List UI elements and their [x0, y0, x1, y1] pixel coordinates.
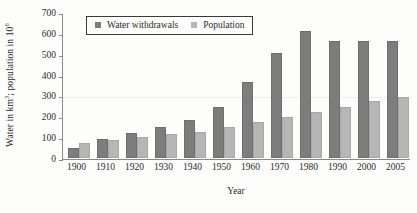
y-axis-tickmark	[59, 35, 63, 36]
bar-population	[369, 101, 380, 158]
plot-area	[62, 14, 410, 160]
bar-population	[340, 107, 351, 158]
y-axis-tick-label: 200	[42, 114, 56, 124]
bar-water-withdrawals	[271, 53, 282, 158]
bar-group	[296, 14, 325, 158]
y-axis-tickmark	[59, 14, 63, 15]
y-axis-tick-label: 600	[42, 30, 56, 40]
x-axis-title: Year	[62, 186, 410, 196]
bar-population	[79, 143, 90, 158]
x-axis-tick-label: 1980	[299, 163, 318, 173]
y-axis-tickmark	[59, 56, 63, 57]
bar-population	[311, 112, 322, 158]
y-axis-tickmark	[59, 139, 63, 140]
bar-water-withdrawals	[97, 139, 108, 158]
bar-population	[195, 132, 206, 158]
bar-group	[267, 14, 296, 158]
bar-group	[93, 14, 122, 158]
bar-population	[166, 134, 177, 158]
y-axis-tick-label: 0	[51, 155, 56, 165]
bar-population	[137, 137, 148, 158]
x-axis-tick-labels: 1900191019201930194019501960197019801990…	[62, 163, 410, 177]
x-axis-tick-label: 1920	[125, 163, 144, 173]
y-axis-tick-label: 500	[42, 51, 56, 61]
bar-population	[398, 97, 409, 158]
bar-group	[64, 14, 93, 158]
chart-legend: Water withdrawals Population	[86, 16, 253, 35]
bar-group	[383, 14, 412, 158]
x-axis-tick-label: 1940	[183, 163, 202, 173]
bar-water-withdrawals	[155, 127, 166, 158]
legend-swatch-icon-population	[191, 22, 197, 28]
x-axis-tick-label: 2000	[357, 163, 376, 173]
bar-water-withdrawals	[242, 82, 253, 158]
x-axis-tick-label: 1970	[270, 163, 289, 173]
legend-item-population: Population	[191, 20, 244, 30]
y-axis-tickmark	[59, 77, 63, 78]
bar-population	[282, 117, 293, 158]
y-axis-tickmark	[59, 160, 63, 161]
x-axis-tick-label: 1960	[241, 163, 260, 173]
legend-swatch-icon-water-withdrawals	[95, 22, 101, 28]
x-axis-tick-label: 2005	[386, 163, 405, 173]
bar-group	[122, 14, 151, 158]
bar-group	[354, 14, 383, 158]
bar-group	[325, 14, 354, 158]
chart-figure: Water in km3; population in 106 01002003…	[0, 0, 417, 213]
y-axis-tickmark	[59, 118, 63, 119]
bar-water-withdrawals	[300, 31, 311, 158]
bar-water-withdrawals	[387, 41, 398, 158]
y-axis-tick-labels: 0100200300400500600700	[18, 14, 60, 160]
bar-groups	[64, 14, 410, 158]
bar-water-withdrawals	[358, 41, 369, 158]
x-axis-tick-label: 1930	[154, 163, 173, 173]
bar-population	[108, 140, 119, 158]
y-axis-tick-label: 400	[42, 72, 56, 82]
bar-water-withdrawals	[184, 120, 195, 158]
bar-water-withdrawals	[329, 41, 340, 158]
y-axis-tickmark	[59, 97, 63, 98]
bar-water-withdrawals	[213, 107, 224, 158]
y-axis-title-exponent-2: 6	[3, 23, 10, 26]
bar-water-withdrawals	[68, 148, 79, 158]
legend-label-population: Population	[203, 20, 244, 30]
x-axis-tick-label: 1990	[328, 163, 347, 173]
bar-group	[180, 14, 209, 158]
y-axis-title-part-2: ; population in 10	[5, 27, 15, 96]
y-axis-tick-label: 700	[42, 9, 56, 19]
bar-population	[253, 122, 264, 159]
y-axis-title: Water in km3; population in 106	[0, 0, 18, 170]
y-axis-title-text: Water in km3; population in 106	[3, 23, 15, 147]
bar-group	[151, 14, 180, 158]
bar-water-withdrawals	[126, 133, 137, 158]
bar-group	[209, 14, 238, 158]
y-axis-tick-label: 100	[42, 134, 56, 144]
x-axis-tick-label: 1950	[212, 163, 231, 173]
legend-item-water-withdrawals: Water withdrawals	[95, 20, 178, 30]
legend-label-water-withdrawals: Water withdrawals	[107, 20, 178, 30]
bar-population	[224, 127, 235, 158]
y-axis-tick-label: 300	[42, 93, 56, 103]
bar-group	[238, 14, 267, 158]
x-axis-tick-label: 1900	[67, 163, 86, 173]
y-axis-title-part-1: Water in km	[5, 99, 15, 147]
y-axis-title-exponent-1: 3	[3, 96, 10, 99]
x-axis-tick-label: 1910	[96, 163, 115, 173]
